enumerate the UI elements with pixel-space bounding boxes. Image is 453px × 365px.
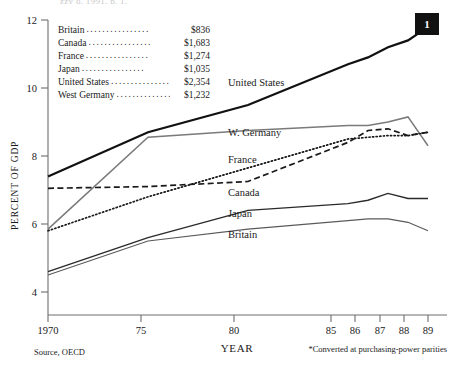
series-line-britain — [48, 219, 428, 275]
legend-value: $2,354 — [172, 76, 210, 89]
legend-leader-dots: ................ — [116, 88, 170, 101]
x-tick-label-86: 86 — [350, 325, 361, 336]
x-tick-label-80: 80 — [229, 325, 240, 336]
legend-leader-dots: ................ — [86, 49, 170, 62]
series-label-united-states: United States — [228, 77, 284, 88]
series-label-japan: Japan — [228, 208, 253, 219]
series-label-west-germany: W. Germany — [228, 127, 282, 138]
y-axis-title: PERCENT OF GDP — [10, 141, 20, 230]
x-tick-label-1970: 1970 — [38, 325, 59, 336]
x-axis-title: YEAR — [221, 342, 253, 354]
source-note: Source, OECD — [34, 347, 85, 357]
y-tick-marks — [41, 20, 48, 292]
y-tick-label-8: 8 — [32, 151, 37, 162]
x-tick-label-75: 75 — [136, 325, 147, 336]
legend-value: $1,274 — [172, 50, 210, 63]
legend-value: $1,035 — [172, 63, 210, 76]
x-tick-label-85: 85 — [326, 325, 337, 336]
series-label-britain: Britain — [228, 229, 258, 240]
legend-country: West Germany — [58, 89, 114, 102]
conversion-note: *Converted at purchasing-power parities — [308, 344, 447, 354]
legend-row: West Germany ................ $1,232 — [58, 89, 210, 102]
legend-country: Britain — [58, 24, 84, 37]
y-tick-label-12: 12 — [27, 15, 38, 26]
series-label-canada: Canada — [228, 187, 260, 198]
y-tick-label-10: 10 — [27, 83, 38, 94]
legend-leader-dots: ................ — [111, 75, 170, 88]
legend-country: United States — [58, 76, 109, 89]
legend-leader-dots: ................ — [82, 62, 170, 75]
x-tick-label-88: 88 — [399, 325, 410, 336]
legend-country: Canada — [58, 37, 87, 50]
legend-value: $1,232 — [172, 89, 210, 102]
legend-value: $836 — [172, 24, 210, 37]
series-label-france: France — [228, 154, 257, 165]
figure-number-badge: 1 — [415, 13, 439, 35]
x-tick-label-89: 89 — [423, 325, 434, 336]
x-tick-label-87: 87 — [375, 325, 386, 336]
legend-country: France — [58, 50, 84, 63]
legend-country: Japan — [58, 63, 80, 76]
spending-legend-table: Britain ................ $836 Canada ...… — [58, 24, 210, 103]
x-tick-marks — [48, 315, 428, 322]
legend-leader-dots: ................ — [89, 36, 171, 49]
y-tick-label-4: 4 — [32, 287, 38, 298]
legend-leader-dots: ................ — [86, 23, 170, 36]
y-tick-label-6: 6 — [32, 219, 37, 230]
legend-value: $1,683 — [172, 37, 210, 50]
chart-figure: zzy o, 1991, p. 1, 12 10 8 6 4 PERCENT O… — [0, 0, 453, 365]
